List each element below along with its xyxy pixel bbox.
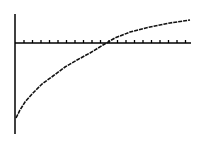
plot-area: [0, 0, 201, 145]
data-curve: [16, 20, 190, 118]
